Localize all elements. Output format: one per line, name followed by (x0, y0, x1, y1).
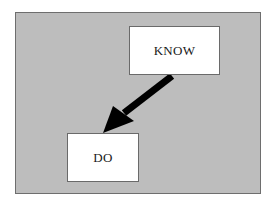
node-do-label: DO (93, 150, 112, 166)
node-do: DO (67, 133, 139, 182)
node-know: KNOW (129, 26, 220, 75)
node-know-label: KNOW (154, 43, 196, 59)
